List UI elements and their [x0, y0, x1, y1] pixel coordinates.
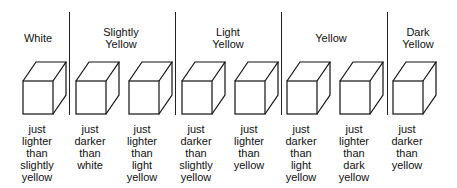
desc-line: than: [120, 147, 164, 159]
desc-line: slightly: [15, 159, 59, 171]
desc-line: just: [174, 123, 218, 135]
cube-icon: [22, 60, 68, 116]
divider-3: [281, 12, 282, 115]
category-label: Yellow: [301, 33, 361, 45]
divider-1: [69, 12, 70, 115]
desc-line: just: [68, 123, 112, 135]
desc-line: just: [279, 123, 323, 135]
desc-line: lighter: [120, 135, 164, 147]
desc-line: just: [15, 123, 59, 135]
desc-line: yellow: [15, 171, 59, 183]
cube-description: justlighterthanslightlyyellow: [15, 123, 59, 183]
desc-line: darker: [279, 135, 323, 147]
desc-line: slightly: [174, 159, 218, 171]
category-label: Slightly: [91, 27, 151, 39]
desc-line: yellow: [174, 171, 218, 183]
category-slightly-yellow: Slightly Yellow: [91, 27, 151, 50]
category-label: Yellow: [198, 39, 258, 51]
cube-icon: [128, 60, 174, 116]
divider-2: [175, 12, 176, 115]
category-label: Dark: [393, 27, 443, 39]
category-label: Yellow: [393, 39, 443, 51]
desc-line: than: [385, 147, 429, 159]
desc-line: than: [68, 147, 112, 159]
cube-description: justlighterthanlightyellow: [120, 123, 164, 183]
cube-description: justdarkerthanwhite: [68, 123, 112, 171]
desc-line: just: [332, 123, 376, 135]
divider-4: [387, 12, 388, 115]
cube-icon: [286, 60, 332, 116]
desc-line: lighter: [227, 135, 271, 147]
desc-line: light: [279, 159, 323, 171]
category-label: White: [13, 33, 63, 45]
desc-line: than: [227, 147, 271, 159]
category-yellow: Yellow: [301, 33, 361, 45]
desc-line: darker: [174, 135, 218, 147]
desc-line: light: [120, 159, 164, 171]
desc-line: yellow: [120, 171, 164, 183]
category-label: Yellow: [91, 39, 151, 51]
cube-description: justdarkerthanlightyellow: [279, 123, 323, 183]
category-light-yellow: Light Yellow: [198, 27, 258, 50]
desc-line: than: [15, 147, 59, 159]
desc-line: just: [227, 123, 271, 135]
desc-line: just: [120, 123, 164, 135]
desc-line: yellow: [279, 171, 323, 183]
cube-icon: [392, 60, 438, 116]
desc-line: white: [68, 159, 112, 171]
category-dark-yellow: Dark Yellow: [393, 27, 443, 50]
desc-line: than: [174, 147, 218, 159]
desc-line: just: [385, 123, 429, 135]
desc-line: than: [332, 147, 376, 159]
desc-line: than: [279, 147, 323, 159]
category-white: White: [13, 33, 63, 45]
desc-line: dark: [332, 159, 376, 171]
cube-icon: [339, 60, 385, 116]
desc-line: darker: [385, 135, 429, 147]
desc-line: yellow: [385, 159, 429, 171]
category-label: Light: [198, 27, 258, 39]
desc-line: yellow: [332, 171, 376, 183]
desc-line: lighter: [15, 135, 59, 147]
cube-description: justdarkerthanslightlyyellow: [174, 123, 218, 183]
desc-line: darker: [68, 135, 112, 147]
cube-icon: [234, 60, 280, 116]
desc-line: yellow: [227, 159, 271, 171]
cube-description: justlighterthandarkyellow: [332, 123, 376, 183]
cube-description: justdarkerthanyellow: [385, 123, 429, 171]
cube-icon: [75, 60, 121, 116]
desc-line: lighter: [332, 135, 376, 147]
cube-description: justlighterthanyellow: [227, 123, 271, 171]
cube-icon: [181, 60, 227, 116]
